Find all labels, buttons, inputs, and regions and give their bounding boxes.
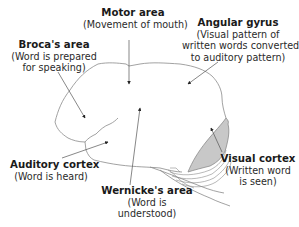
- label-title: Broca's area: [6, 39, 102, 51]
- arrow-wernicke: [130, 108, 140, 185]
- label-title: Wernicke's area: [92, 185, 202, 197]
- label-desc: (Visual pattern of: [182, 29, 294, 41]
- label-desc: for speaking): [6, 62, 102, 74]
- label-auditory-cortex: Auditory cortex (Word is heard): [10, 159, 92, 182]
- arrow-angular: [188, 62, 218, 84]
- label-desc: (Word is prepared: [6, 51, 102, 63]
- label-title: Angular gyrus: [182, 17, 294, 29]
- label-angular-gyrus: Angular gyrus (Visual pattern of written…: [182, 17, 294, 63]
- label-motor-area: Motor area (Movement of mouth): [83, 7, 183, 30]
- label-brocas-area: Broca's area (Word is prepared for speak…: [6, 39, 102, 74]
- arrow-broca: [58, 72, 85, 118]
- label-wernickes-area: Wernicke's area (Word is understood): [92, 185, 202, 220]
- label-desc: is seen): [220, 176, 296, 188]
- label-desc: understood): [92, 208, 202, 220]
- label-desc: (Written word: [220, 165, 296, 177]
- label-desc: (Word is heard): [10, 171, 92, 183]
- label-title: Auditory cortex: [10, 159, 92, 171]
- label-title: Motor area: [83, 7, 183, 19]
- label-title: Visual cortex: [220, 153, 296, 165]
- label-visual-cortex: Visual cortex (Written word is seen): [220, 153, 296, 188]
- sylvian-fissure: [85, 118, 118, 142]
- label-desc: (Word is: [92, 197, 202, 209]
- label-desc: (Movement of mouth): [83, 19, 183, 31]
- label-desc: written words converted: [182, 40, 294, 52]
- label-desc: to auditory pattern): [182, 52, 294, 64]
